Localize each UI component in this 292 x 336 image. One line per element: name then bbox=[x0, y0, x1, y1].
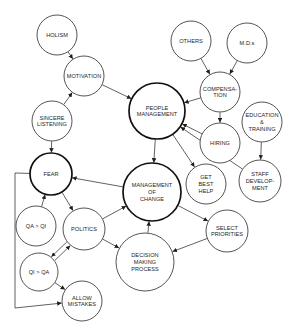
node-qa-gt-qi: QA > QI bbox=[16, 206, 56, 246]
node-label-line: BEST bbox=[199, 181, 214, 187]
node-label-line: COMPENSA- bbox=[203, 86, 237, 92]
node-select-priorities: SELECTPRIORITIES bbox=[206, 210, 248, 252]
node-label-line: MANAGEMENT bbox=[137, 111, 178, 117]
node-label-line: HIRING bbox=[210, 140, 230, 146]
node-allow-mistakes: ALLOWMISTAKES bbox=[62, 281, 102, 321]
node-label-line: FEAR bbox=[43, 171, 58, 177]
node-label-line: QI > QA bbox=[29, 269, 50, 275]
arrow-qi-gt-qa-to-politics bbox=[55, 246, 71, 261]
node-label-line: MAKING bbox=[134, 259, 156, 265]
node-label-sincere-listening: SINCERELISTENING bbox=[37, 115, 67, 128]
node-label-line: PEOPLE bbox=[146, 105, 169, 111]
node-label-holism: HOLISM bbox=[46, 32, 68, 38]
node-label-line: CHANGE bbox=[140, 196, 164, 202]
node-label-get-best-help: GETBESTHELP bbox=[199, 174, 214, 194]
node-label-line: OTHERS bbox=[179, 38, 203, 44]
arrow-motivation-to-people-management bbox=[102, 85, 131, 99]
node-label-fear: FEAR bbox=[43, 171, 58, 177]
arrow-mds-to-compensation bbox=[230, 61, 237, 74]
node-people-management: PEOPLEMANAGEMENT bbox=[129, 83, 185, 139]
arrow-management-of-change-to-select-priorities bbox=[178, 206, 208, 222]
node-label-decision-making-process: DECISIONMAKINGPROCESS bbox=[131, 252, 159, 272]
node-get-best-help: GETBESTHELP bbox=[186, 164, 226, 204]
node-politics: POLITICS bbox=[63, 208, 105, 250]
arrow-people-management-to-management-of-change bbox=[154, 139, 156, 163]
node-label-line: QA > QI bbox=[26, 223, 47, 229]
node-label-line: SELECT bbox=[216, 225, 239, 231]
node-label-line: LISTENING bbox=[37, 121, 67, 127]
node-qi-gt-qa: QI > QA bbox=[20, 253, 58, 291]
node-label-mds: M.D.s bbox=[240, 40, 255, 46]
node-label-line: DECISION bbox=[131, 252, 158, 258]
arrow-hiring-to-people-management bbox=[182, 124, 202, 134]
node-label-line: POLITICS bbox=[71, 226, 97, 232]
arrow-others-to-compensation bbox=[201, 59, 210, 75]
node-label-line: STAFF bbox=[251, 171, 269, 177]
node-label-line: & bbox=[260, 119, 264, 125]
arrow-compensation-to-people-management bbox=[184, 98, 200, 103]
node-label-others: OTHERS bbox=[179, 38, 203, 44]
node-label-line: SINCERE bbox=[39, 115, 64, 121]
node-label-line: ALLOW bbox=[72, 295, 93, 301]
node-label-line: MANAGEMENT bbox=[132, 182, 173, 188]
node-motivation: MOTIVATION bbox=[64, 56, 104, 96]
node-label-line: TION bbox=[213, 92, 227, 98]
arrow-education-training-to-staff-development bbox=[261, 142, 262, 159]
node-label-line: MOTIVATION bbox=[67, 73, 101, 79]
node-staff-development: STAFFDEVELOP-MENT bbox=[239, 160, 281, 202]
node-label-qi-gt-qa: QI > QA bbox=[29, 269, 50, 275]
arrow-holism-to-motivation bbox=[68, 52, 73, 59]
node-decision-making-process: DECISIONMAKINGPROCESS bbox=[116, 233, 174, 291]
node-label-line: M.D.s bbox=[240, 40, 255, 46]
node-label-motivation: MOTIVATION bbox=[67, 73, 101, 79]
node-holism: HOLISM bbox=[37, 15, 77, 55]
node-label-line: HELP bbox=[199, 188, 214, 194]
node-label-line: GET bbox=[200, 174, 212, 180]
node-label-line: OF bbox=[148, 189, 156, 195]
node-compensation: COMPENSA-TION bbox=[200, 72, 240, 112]
node-label-politics: POLITICS bbox=[71, 226, 97, 232]
node-label-line: MENT bbox=[252, 185, 269, 191]
arrow-select-priorities-to-decision-making-process bbox=[173, 239, 208, 252]
node-mds: M.D.s bbox=[227, 23, 267, 63]
node-label-line: EDUCATION bbox=[246, 112, 279, 118]
node-label-line: DEVELOP- bbox=[246, 178, 275, 184]
arrow-qa-gt-qi-to-fear bbox=[42, 195, 46, 207]
node-label-line: PROCESS bbox=[131, 266, 159, 272]
concept-diagram: HOLISMMOTIVATIONSINCERELISTENINGFEARQA >… bbox=[0, 0, 292, 336]
arrow-management-of-change-to-fear bbox=[72, 178, 123, 187]
node-hiring: HIRING bbox=[200, 123, 240, 163]
node-fear: FEAR bbox=[30, 153, 72, 195]
node-education-training: EDUCATION&TRAINING bbox=[242, 102, 282, 142]
arrow-sincere-listening-to-motivation bbox=[64, 93, 72, 105]
node-label-qa-gt-qi: QA > QI bbox=[26, 223, 47, 229]
arrow-politics-to-qi-gt-qa bbox=[51, 242, 67, 257]
node-label-line: PRIORITIES bbox=[211, 231, 243, 237]
nodes-layer: HOLISMMOTIVATIONSINCERELISTENINGFEARQA >… bbox=[16, 15, 282, 321]
node-label-line: TRAINING bbox=[248, 126, 275, 132]
arrow-fear-to-politics bbox=[62, 192, 73, 210]
node-label-line: MISTAKES bbox=[68, 301, 96, 307]
node-management-of-change: MANAGEMENTOFCHANGE bbox=[123, 163, 181, 221]
node-label-line: HOLISM bbox=[46, 32, 68, 38]
arrow-politics-to-decision-making-process bbox=[103, 239, 119, 248]
arrow-decision-making-process-to-management-of-change bbox=[148, 221, 149, 233]
node-label-hiring: HIRING bbox=[210, 140, 230, 146]
node-others: OTHERS bbox=[171, 21, 211, 61]
arrow-qi-gt-qa-to-allow-mistakes bbox=[55, 283, 65, 290]
arrow-politics-to-management-of-change bbox=[103, 206, 127, 219]
node-sincere-listening: SINCERELISTENING bbox=[32, 101, 72, 141]
arrow-people-management-to-get-best-help bbox=[173, 135, 195, 168]
